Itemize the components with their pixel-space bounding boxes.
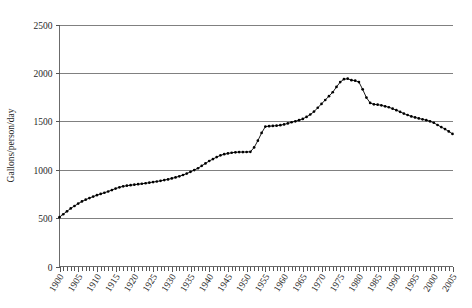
series-marker	[107, 190, 110, 193]
series-marker	[73, 205, 76, 208]
series-marker	[114, 187, 117, 190]
series-marker	[294, 120, 297, 123]
series-marker	[96, 194, 99, 197]
series-marker	[103, 191, 106, 194]
series-marker	[305, 116, 308, 119]
series-marker	[140, 182, 143, 185]
series-marker	[268, 125, 271, 128]
series-marker	[436, 124, 439, 127]
series-marker	[253, 146, 256, 149]
x-tick-label-1935: 1935	[178, 272, 197, 294]
series-marker	[137, 183, 140, 186]
series-marker	[384, 105, 387, 108]
series-marker	[331, 91, 334, 94]
y-tick-label-0: 0	[48, 263, 53, 273]
series-marker	[212, 158, 215, 161]
y-axis-title: Gallons/person/day	[6, 108, 16, 182]
series-marker	[350, 79, 353, 82]
series-marker	[376, 103, 379, 106]
x-tick-label-1960: 1960	[272, 272, 291, 294]
series-marker	[298, 119, 301, 122]
series-line-0	[60, 79, 453, 217]
series-marker	[444, 128, 447, 131]
series-marker	[283, 123, 286, 126]
series-marker	[271, 125, 274, 128]
series-marker	[264, 125, 267, 128]
series-marker	[227, 152, 230, 155]
x-tick-label-1900: 1900	[47, 272, 66, 294]
series-marker	[361, 88, 364, 91]
series-marker	[189, 170, 192, 173]
series-marker	[451, 133, 454, 136]
series-marker	[447, 130, 450, 133]
x-tick-label-1995: 1995	[403, 272, 422, 294]
series-marker	[249, 150, 252, 153]
series-marker	[81, 200, 84, 203]
series-marker	[406, 114, 409, 117]
x-tick-label-1930: 1930	[159, 272, 178, 294]
series-marker	[178, 175, 181, 178]
series-marker	[414, 116, 417, 119]
series-marker	[421, 118, 424, 121]
series-marker	[286, 122, 289, 125]
series-marker	[215, 156, 218, 159]
series-marker	[440, 126, 443, 129]
series-marker	[234, 151, 237, 154]
series-marker	[380, 104, 383, 107]
series-marker	[197, 167, 200, 170]
series-marker	[391, 107, 394, 110]
x-tick-label-1965: 1965	[290, 272, 309, 294]
y-tick-marks-group	[56, 26, 60, 268]
series-marker	[77, 202, 80, 205]
series-marker	[417, 117, 420, 120]
series-marker	[399, 110, 402, 113]
y-tick-label-2000: 2000	[34, 69, 53, 79]
series-marker	[320, 103, 323, 106]
x-tick-label-1920: 1920	[122, 272, 141, 294]
series-marker	[159, 179, 162, 182]
y-tick-labels-group: 05001000150020002500	[34, 21, 53, 273]
gridlines-group	[60, 26, 453, 219]
series-marker	[242, 151, 245, 154]
chart-figure: 05001000150020002500 1900190519101915192…	[0, 0, 472, 308]
series-marker	[200, 164, 203, 167]
series-marker	[219, 154, 222, 157]
x-tick-label-1910: 1910	[85, 272, 104, 294]
series-marker	[358, 81, 361, 84]
y-tick-label-2500: 2500	[34, 21, 53, 31]
series-marker	[257, 139, 260, 142]
series-marker	[126, 184, 129, 187]
series-marker	[155, 180, 158, 183]
series-marker	[152, 181, 155, 184]
series-marker	[328, 95, 331, 98]
x-tick-label-1940: 1940	[197, 272, 216, 294]
series-marker	[343, 78, 346, 81]
series-marker	[88, 197, 91, 200]
series-marker	[346, 77, 349, 80]
series-marker	[369, 102, 372, 105]
series-marker	[111, 189, 114, 192]
series-marker	[339, 81, 342, 84]
series-marker	[245, 151, 248, 154]
series-marker	[324, 99, 327, 102]
series-marker	[260, 132, 263, 135]
series-marker	[373, 103, 376, 106]
y-axis-title-group: Gallons/person/day	[6, 108, 16, 182]
x-tick-label-1945: 1945	[216, 272, 235, 294]
series-marker	[238, 151, 241, 154]
series-marker	[174, 176, 177, 179]
x-tick-label-1950: 1950	[234, 272, 253, 294]
series-marker	[163, 179, 166, 182]
x-tick-label-1955: 1955	[253, 272, 272, 294]
series-marker	[402, 112, 405, 115]
series-marker	[69, 207, 72, 210]
x-tick-label-1985: 1985	[365, 272, 384, 294]
x-tick-label-1990: 1990	[384, 272, 403, 294]
series-marker	[58, 216, 61, 219]
water-use-line-chart: 05001000150020002500 1900190519101915192…	[0, 0, 472, 308]
y-tick-label-1000: 1000	[34, 166, 53, 176]
x-tick-label-1980: 1980	[347, 272, 366, 294]
series-marker	[388, 106, 391, 109]
series-marker	[230, 151, 233, 154]
series-marker	[335, 86, 338, 89]
